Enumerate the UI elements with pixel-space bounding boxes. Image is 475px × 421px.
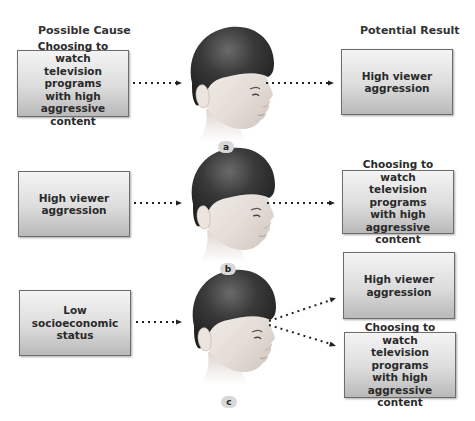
panel-label-a: a: [218, 141, 234, 153]
child-head-profile-icon: [193, 270, 276, 384]
result-box-b: Choosing to watch television programs wi…: [342, 170, 454, 234]
cause-box-b: High viewer aggression: [18, 171, 130, 237]
child-head-profile-icon: [191, 27, 274, 141]
cause-text-c: Low socioeconomic status: [32, 304, 119, 342]
child-head-profile-icon: [192, 148, 275, 262]
panel-label-c: c: [221, 396, 237, 408]
result-text-a: High viewer aggression: [362, 70, 433, 95]
cause-text-b: High viewer aggression: [39, 192, 110, 217]
panel-label-b: b: [220, 263, 236, 275]
result-box-a: High viewer aggression: [341, 49, 453, 115]
result-text-b: Choosing to watch television programs wi…: [347, 158, 449, 246]
cause-box-c: Low socioeconomic status: [19, 290, 131, 356]
cause-text-a: Choosing to watch television programs wi…: [22, 40, 124, 128]
result-text-c1: High viewer aggression: [364, 273, 435, 298]
result-box-c2: Choosing to watch television programs wi…: [344, 332, 456, 398]
result-text-c2: Choosing to watch television programs wi…: [349, 321, 451, 409]
result-box-c1: High viewer aggression: [343, 252, 455, 319]
cause-box-a: Choosing to watch television programs wi…: [17, 50, 129, 117]
